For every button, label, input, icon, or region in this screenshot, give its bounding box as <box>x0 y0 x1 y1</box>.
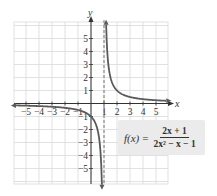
y-tick-label: −3 <box>78 138 88 148</box>
y-tick-label: 3 <box>83 60 88 70</box>
y-axis-label: y <box>87 7 93 18</box>
x-tick-label: −5 <box>21 107 31 117</box>
formula-box: f(x) = 2x + 1 2x² − x − 1 <box>118 120 205 155</box>
x-tick-label: −4 <box>34 107 44 117</box>
formula-numerator: 2x + 1 <box>160 126 188 138</box>
x-tick-label: 4 <box>141 107 146 117</box>
x-tick-label: −3 <box>47 107 57 117</box>
formula-fraction: 2x + 1 2x² − x − 1 <box>151 126 197 149</box>
y-tick-label: 1 <box>83 86 88 96</box>
formula-equals: = <box>142 132 148 144</box>
x-tick-label: 2 <box>115 107 120 117</box>
y-tick-label: −2 <box>78 125 88 135</box>
y-tick-label: 4 <box>83 47 88 57</box>
curve-arrow-icon <box>11 103 16 108</box>
formula-denominator: 2x² − x − 1 <box>151 138 197 149</box>
x-tick-label: 5 <box>154 107 159 117</box>
y-tick-label: 2 <box>83 73 88 83</box>
x-axis-label: x <box>174 98 180 109</box>
x-tick-label: 3 <box>128 107 133 117</box>
y-tick-label: −4 <box>78 151 88 161</box>
curve-left-branch <box>15 105 102 184</box>
formula-lhs: f(x) <box>124 132 139 144</box>
curve-right-branch <box>106 25 166 101</box>
y-tick-label: 5 <box>83 34 88 44</box>
curve-arrow-icon <box>99 185 104 190</box>
y-tick-label: −5 <box>78 164 88 174</box>
graph: xy−5−4−3−2−112345−5−4−3−2−112345 <box>0 0 217 196</box>
